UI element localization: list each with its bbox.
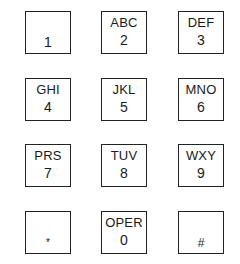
key-digit: 3 <box>179 32 223 48</box>
key-letters: WXY <box>179 149 223 163</box>
key-8[interactable]: TUV 8 <box>101 144 147 187</box>
key-letters: JKL <box>102 83 146 97</box>
key-pound[interactable]: # <box>178 211 224 254</box>
key-letters: TUV <box>102 149 146 163</box>
key-2[interactable]: ABC 2 <box>101 11 147 54</box>
key-1[interactable]: 1 <box>25 11 71 54</box>
key-letters: GHI <box>26 83 70 97</box>
key-0[interactable]: OPER 0 <box>101 211 147 254</box>
key-digit: 4 <box>26 99 70 115</box>
key-letters: DEF <box>179 16 223 30</box>
key-digit: * <box>26 235 70 251</box>
key-digit: 0 <box>102 232 146 248</box>
key-digit: 7 <box>26 165 70 181</box>
key-letters: PRS <box>26 149 70 163</box>
key-6[interactable]: MNO 6 <box>178 78 224 121</box>
key-digit: 9 <box>179 165 223 181</box>
key-letters: MNO <box>179 83 223 97</box>
key-digit: 1 <box>26 34 70 50</box>
key-3[interactable]: DEF 3 <box>178 11 224 54</box>
key-digit: 2 <box>102 32 146 48</box>
key-digit: # <box>179 235 223 251</box>
key-letters: OPER <box>102 216 146 230</box>
key-star[interactable]: * <box>25 211 71 254</box>
key-5[interactable]: JKL 5 <box>101 78 147 121</box>
key-digit: 5 <box>102 99 146 115</box>
key-digit: 6 <box>179 99 223 115</box>
key-7[interactable]: PRS 7 <box>25 144 71 187</box>
key-digit: 8 <box>102 165 146 181</box>
key-letters: ABC <box>102 16 146 30</box>
key-4[interactable]: GHI 4 <box>25 78 71 121</box>
key-9[interactable]: WXY 9 <box>178 144 224 187</box>
